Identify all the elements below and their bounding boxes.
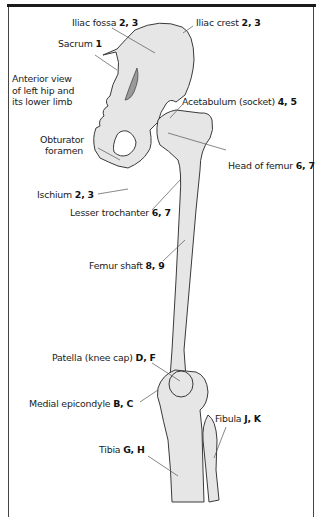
label-refs: D, F	[136, 352, 156, 363]
label-name: Medial epicondyle	[29, 398, 110, 409]
caption-line: Anterior view	[12, 73, 74, 85]
label-ischium: Ischium 2, 3	[37, 189, 94, 200]
leader-lesser-trochanter	[152, 180, 180, 210]
label-name: Lesser trochanter	[70, 207, 149, 218]
caption-line: of left hip and	[12, 85, 74, 97]
label-refs: B, C	[113, 398, 133, 409]
label-obturator-foramen: Obturator foramen	[40, 134, 84, 156]
label-name: Iliac crest	[196, 17, 239, 28]
fibula-bone	[203, 415, 219, 502]
figure-caption: Anterior view of left hip and its lower …	[12, 73, 74, 108]
label-name: Patella (knee cap)	[52, 352, 133, 363]
leader-ischium	[98, 189, 128, 194]
label-refs: 1	[95, 38, 101, 49]
patella-bone	[169, 371, 193, 397]
label-name: Femur shaft	[89, 260, 143, 271]
label-name: foramen	[40, 145, 84, 156]
label-name: Tibia	[99, 444, 120, 455]
label-refs: 2, 3	[75, 189, 94, 200]
label-name: Sacrum	[58, 38, 93, 49]
label-medial-epicondyle: Medial epicondyle B, C	[29, 398, 133, 409]
label-iliac-crest: Iliac crest 2, 3	[196, 17, 261, 28]
label-name: Head of femur	[228, 160, 293, 171]
label-refs: 2, 3	[119, 17, 138, 28]
label-name: Obturator	[40, 134, 84, 145]
leader-medial-epicondyle	[140, 390, 158, 402]
label-name: Acetabulum (socket)	[182, 96, 275, 107]
label-head-of-femur: Head of femur 6, 7	[228, 160, 315, 171]
femur-bone	[157, 110, 213, 378]
label-name: Ischium	[37, 189, 72, 200]
label-fibula: Fibula J, K	[215, 413, 261, 424]
label-sacrum: Sacrum 1	[58, 38, 102, 49]
label-refs: 6, 7	[296, 160, 315, 171]
label-refs: 8, 9	[146, 260, 165, 271]
label-refs: 4, 5	[278, 96, 297, 107]
label-tibia: Tibia G, H	[99, 444, 145, 455]
label-femur-shaft: Femur shaft 8, 9	[89, 260, 165, 271]
label-iliac-fossa: Iliac fossa 2, 3	[72, 17, 138, 28]
label-lesser-trochanter: Lesser trochanter 6, 7	[70, 207, 171, 218]
label-refs: 6, 7	[152, 207, 171, 218]
label-name: Iliac fossa	[72, 17, 116, 28]
label-refs: J, K	[244, 413, 261, 424]
label-name: Fibula	[215, 413, 241, 424]
label-refs: G, H	[123, 444, 145, 455]
label-acetabulum: Acetabulum (socket) 4, 5	[182, 96, 297, 107]
caption-line: its lower limb	[12, 96, 74, 108]
leader-sacrum	[95, 55, 117, 70]
label-refs: 2, 3	[242, 17, 261, 28]
label-patella: Patella (knee cap) D, F	[52, 352, 156, 363]
